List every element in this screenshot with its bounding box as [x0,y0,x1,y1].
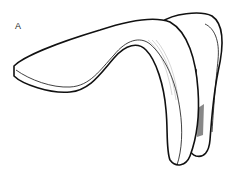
appliance-illustration [0,0,236,178]
front-body [14,19,199,165]
